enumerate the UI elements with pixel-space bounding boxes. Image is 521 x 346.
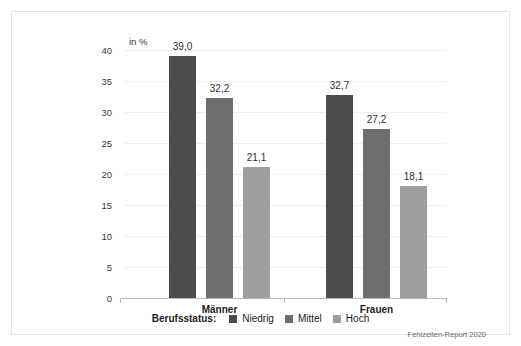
- bar-value-label: 21,1: [247, 152, 266, 163]
- legend-swatch-hoch: [333, 315, 341, 323]
- y-tick-label: 35: [101, 76, 112, 87]
- bar[interactable]: [326, 95, 353, 298]
- bar[interactable]: [400, 186, 427, 298]
- chart-figure: in % 39,032,221,132,727,218,1 Berufsstat…: [0, 0, 521, 346]
- x-group-label: Frauen: [360, 304, 393, 315]
- legend: Berufsstatus: Niedrig Mittel Hoch: [12, 313, 509, 324]
- x-axis-tick: [284, 298, 285, 303]
- y-tick-label: 30: [101, 107, 112, 118]
- source-note: Fehlzeiten-Report 2020: [408, 330, 486, 339]
- x-axis-tick: [120, 298, 121, 303]
- y-tick-label: 0: [107, 293, 112, 304]
- x-group-label: Männer: [202, 304, 238, 315]
- bar-value-label: 18,1: [404, 171, 423, 182]
- plot-area: 39,032,221,132,727,218,1: [125, 50, 447, 298]
- bar-value-label: 39,0: [173, 41, 192, 52]
- bar[interactable]: [169, 56, 196, 298]
- y-tick-label: 20: [101, 169, 112, 180]
- bar-value-label: 32,2: [210, 83, 229, 94]
- y-tick-label: 40: [101, 45, 112, 56]
- y-tick-label: 25: [101, 138, 112, 149]
- legend-label-niedrig: Niedrig: [242, 313, 274, 324]
- y-tick-label: 15: [101, 200, 112, 211]
- y-tick-label: 10: [101, 231, 112, 242]
- bar[interactable]: [206, 98, 233, 298]
- y-tick-label: 5: [107, 262, 112, 273]
- legend-swatch-niedrig: [229, 315, 237, 323]
- bar-value-label: 27,2: [367, 114, 386, 125]
- legend-swatch-mittel: [285, 315, 293, 323]
- bar[interactable]: [243, 167, 270, 298]
- bar-value-label: 32,7: [330, 80, 349, 91]
- axis-unit-label: in %: [129, 36, 147, 47]
- legend-item-mittel[interactable]: Mittel: [285, 313, 322, 324]
- y-axis-ticks: 0510152025303540: [12, 50, 117, 298]
- legend-label-mittel: Mittel: [298, 313, 322, 324]
- figure-frame: in % 39,032,221,132,727,218,1 Berufsstat…: [11, 11, 510, 335]
- bar[interactable]: [363, 129, 390, 298]
- x-axis-tick: [446, 298, 447, 303]
